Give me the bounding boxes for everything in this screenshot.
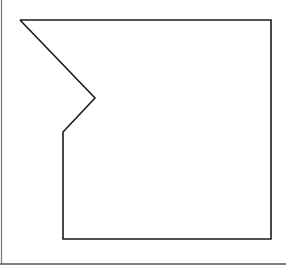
notched-polygon-shape [20, 20, 271, 239]
diagram-svg [0, 0, 286, 266]
diagram-canvas [0, 0, 286, 266]
